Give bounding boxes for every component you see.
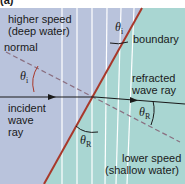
deep-water-label-line2: (deep water) — [8, 25, 70, 37]
figure-label: (a) — [0, 0, 13, 6]
theta-i-top: θi — [115, 20, 123, 36]
incident-label-line1: incident — [8, 102, 46, 114]
shallow-water-label-line2: (shallow water) — [105, 164, 179, 176]
refracted-label-line2: wave ray — [132, 84, 176, 96]
refracted-label-line1: refracted — [132, 72, 175, 84]
normal-label: normal — [4, 41, 38, 53]
incident-label-line2: wave — [8, 114, 34, 126]
theta-i-left: θi — [20, 69, 28, 85]
deep-water-label-line1: higher speed — [8, 13, 72, 25]
boundary-label: boundary — [133, 33, 179, 45]
theta-r-right: θR — [139, 105, 150, 121]
incident-label-line3: ray — [8, 126, 23, 138]
shallow-water-label-line1: lower speed — [122, 152, 181, 164]
refraction-diagram: (a) higher speed (deep water) normal bou… — [0, 0, 185, 184]
theta-r-bottom: θR — [80, 133, 91, 149]
